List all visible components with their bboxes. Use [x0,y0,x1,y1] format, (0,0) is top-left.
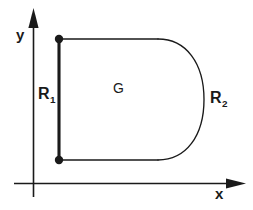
r1-label-base: R [38,85,50,102]
R2-boundary-arc [158,39,204,160]
r2-label-subscript: 2 [222,98,228,109]
r1-label: R1 [38,86,55,102]
geometry-diagram-region-g: y x R1 R2 G [0,0,253,210]
r2-label-base: R [210,89,222,106]
y-axis-arrowhead [28,8,38,28]
region-boundary-group [55,35,204,164]
region-g-label: G [113,81,124,95]
r1-label-subscript: 1 [50,94,56,105]
r2-label: R2 [210,90,227,106]
endpoint-dot-top [55,35,63,43]
x-axis-label: x [215,186,223,201]
endpoint-dot-bottom [55,156,63,164]
y-axis-label: y [16,27,24,42]
x-axis-arrowhead [226,178,246,188]
